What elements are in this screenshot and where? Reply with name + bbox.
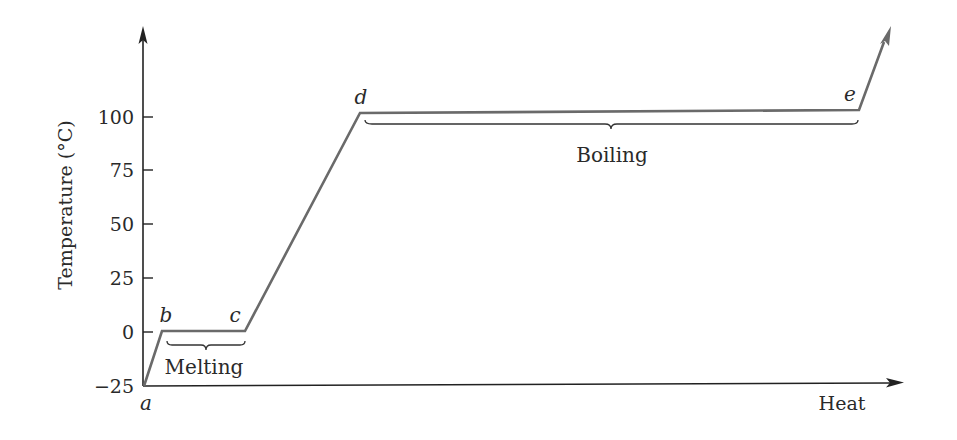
chart-svg: 100 75 50 25 0 −25 Temperature (°C) Heat… (0, 0, 957, 440)
point-label-c: c (229, 303, 240, 327)
tick-label-75: 75 (110, 159, 134, 181)
boiling-label: Boiling (576, 143, 648, 167)
heating-curve (144, 26, 891, 386)
melting-label: Melting (165, 355, 244, 379)
tick-label-minus25: −25 (94, 375, 134, 397)
point-label-a: a (140, 391, 152, 415)
y-axis-title: Temperature (°C) (54, 120, 76, 289)
tick-label-100: 100 (98, 106, 134, 128)
point-label-d: d (355, 85, 368, 109)
point-label-b: b (160, 303, 173, 327)
tick-label-0: 0 (122, 321, 134, 343)
y-ticks (143, 117, 153, 332)
heating-curve-chart: 100 75 50 25 0 −25 Temperature (°C) Heat… (0, 0, 957, 440)
curve-arrow-icon (880, 26, 891, 46)
x-axis-title: Heat (819, 392, 866, 414)
point-label-e: e (844, 82, 856, 106)
tick-label-25: 25 (110, 267, 134, 289)
melting-brace: Melting (165, 341, 245, 379)
y-axis: 100 75 50 25 0 −25 Temperature (°C) (54, 26, 153, 397)
boiling-brace: Boiling (365, 120, 858, 167)
tick-label-50: 50 (110, 213, 134, 235)
x-axis: Heat (143, 378, 904, 414)
